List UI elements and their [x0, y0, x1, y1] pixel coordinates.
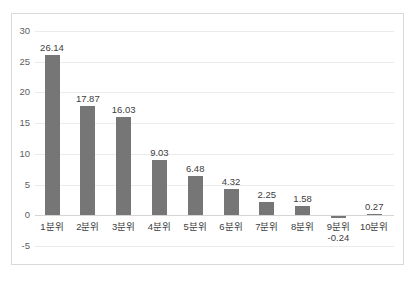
gridline--5	[35, 246, 394, 247]
y-axis-tick-label: 15	[12, 118, 30, 127]
bar-value-label: 9.03	[139, 148, 179, 158]
bar[interactable]	[295, 206, 310, 216]
x-axis-category-label: 7분위	[247, 221, 287, 232]
x-axis-category-label: 8분위	[283, 221, 323, 232]
chart-frame: 302520151050-526.141분위17.872분위16.033분위9.…	[11, 13, 404, 265]
bar[interactable]	[224, 189, 239, 216]
y-axis-tick-label: 0	[12, 210, 30, 219]
y-axis-tick-label: 25	[12, 57, 30, 66]
gridline-25	[35, 62, 394, 63]
y-axis-tick-label: 20	[12, 87, 30, 96]
bar-value-label: 2.25	[247, 190, 287, 200]
bar[interactable]	[331, 216, 346, 218]
y-axis-tick-label: -5	[12, 241, 30, 250]
x-axis-category-label: 2분위	[68, 221, 108, 232]
bar-value-label: 26.14	[32, 43, 72, 53]
x-axis-category-label: 1분위	[32, 221, 72, 232]
bar[interactable]	[80, 106, 95, 216]
bar-value-label: 6.48	[175, 164, 215, 174]
bar-value-label: 0.27	[354, 202, 394, 212]
bar-value-label: 16.03	[104, 105, 144, 115]
bar[interactable]	[116, 117, 131, 216]
x-axis-category-label: 4분위	[139, 221, 179, 232]
y-axis-tick-label: 10	[12, 149, 30, 158]
bar[interactable]	[152, 160, 167, 216]
x-axis-category-label: 9분위-0.24	[318, 221, 358, 243]
gridline-30	[35, 31, 394, 32]
x-axis-category-label: 10분위	[354, 221, 394, 232]
bar[interactable]	[188, 176, 203, 216]
bar-value-label: 4.32	[211, 177, 251, 187]
y-axis-tick-label: 5	[12, 180, 30, 189]
x-axis-category-label: 6분위	[211, 221, 251, 232]
y-axis-tick-label: 30	[12, 26, 30, 35]
bar[interactable]	[45, 55, 60, 216]
bar[interactable]	[367, 214, 382, 216]
bar-value-label: 17.87	[68, 94, 108, 104]
bar-value-label: -0.24	[318, 232, 358, 243]
chart-plot-area: 302520151050-526.141분위17.872분위16.033분위9.…	[12, 14, 405, 266]
x-axis-category-label: 5분위	[175, 221, 215, 232]
bar-value-label: 1.58	[283, 194, 323, 204]
x-axis-category-label: 3분위	[104, 221, 144, 232]
bar[interactable]	[259, 202, 274, 216]
